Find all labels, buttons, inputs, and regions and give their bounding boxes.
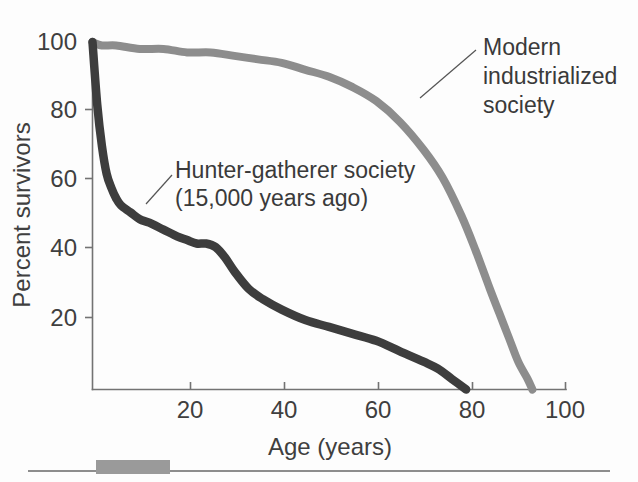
annotation-modern-line-3: society bbox=[483, 92, 555, 118]
annotation-modern-line-2: industrialized bbox=[483, 63, 617, 89]
x-tick-label-40: 40 bbox=[271, 396, 298, 423]
series-group bbox=[93, 42, 533, 390]
y-tick-label-100: 100 bbox=[37, 28, 77, 55]
x-tick-label-20: 20 bbox=[177, 396, 204, 423]
annotation-hunter-gatherer-line-2: (15,000 years ago) bbox=[175, 185, 368, 211]
x-tick-label-60: 60 bbox=[365, 396, 392, 423]
annotation-hunter-gatherer: Hunter-gatherer society (15,000 years ag… bbox=[175, 157, 416, 211]
x-tick-label-100: 100 bbox=[545, 396, 585, 423]
annotation-modern-industrialized: Modern industrialized society bbox=[483, 34, 617, 118]
x-tick-marks bbox=[191, 382, 566, 390]
annotation-hunter-gatherer-line-1: Hunter-gatherer society bbox=[175, 157, 416, 183]
y-tick-marks bbox=[85, 110, 93, 318]
leader-line-hunter-gatherer bbox=[146, 175, 172, 204]
footer-scroll-block[interactable] bbox=[96, 460, 170, 474]
y-tick-label-80: 80 bbox=[50, 96, 77, 123]
y-axis-title: Percent survivors bbox=[8, 122, 35, 307]
y-tick-label-20: 20 bbox=[50, 304, 77, 331]
x-tick-label-80: 80 bbox=[459, 396, 486, 423]
leader-line-modern-industrialized bbox=[420, 50, 476, 98]
figure-root: 100 80 60 40 20 20 40 60 80 100 Percent … bbox=[0, 0, 638, 482]
y-tick-labels: 100 80 60 40 20 bbox=[37, 28, 77, 331]
y-tick-label-40: 40 bbox=[50, 234, 77, 261]
series-line-hunter-gatherer bbox=[93, 42, 467, 390]
annotation-modern-line-1: Modern bbox=[483, 34, 561, 60]
y-tick-label-60: 60 bbox=[50, 165, 77, 192]
x-axis-title: Age (years) bbox=[268, 433, 392, 460]
x-tick-labels: 20 40 60 80 100 bbox=[177, 396, 585, 423]
series-line-modern-industrialized bbox=[93, 42, 533, 390]
survivorship-curve-chart: 100 80 60 40 20 20 40 60 80 100 Percent … bbox=[0, 0, 638, 482]
